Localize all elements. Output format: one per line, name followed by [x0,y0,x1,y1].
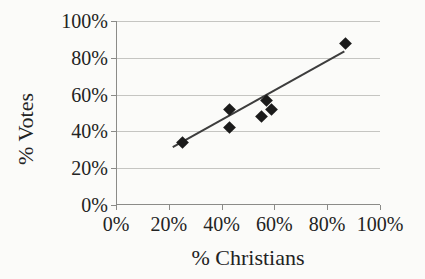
x-axis-tick [116,205,117,210]
y-axis-tick [111,131,116,132]
y-axis-tick [111,21,116,22]
y-tick-label: 0% [0,194,108,216]
y-axis-tick-labels: 0%20%40%60%80%100% [0,21,108,205]
scatter-chart: % Votes 0%20%40%60%80%100% 0%20%40%60%80… [0,0,425,279]
plot-area [116,21,380,205]
y-tick-label: 100% [0,10,108,32]
x-axis-tick [274,205,275,210]
data-point [255,110,268,123]
data-points-layer [116,21,380,205]
x-axis-tick [380,205,381,210]
x-axis-tick [169,205,170,210]
y-axis-tick [111,168,116,169]
y-axis-tick [111,58,116,59]
y-axis-tick [111,95,116,96]
x-axis-tick [222,205,223,210]
data-point [176,136,189,149]
x-tick-label: 60% [256,213,293,235]
x-tick-label: 20% [150,213,187,235]
y-tick-label: 60% [0,84,108,106]
x-axis-tick [327,205,328,210]
x-axis-title: % Christians [191,246,304,270]
data-point [223,121,236,134]
x-tick-label: 0% [103,213,130,235]
x-axis-tick-labels: 0%20%40%60%80%100% [116,213,380,237]
x-tick-label: 40% [203,213,240,235]
data-point [339,37,352,50]
x-tick-label: 80% [309,213,346,235]
data-point [223,103,236,116]
y-tick-label: 40% [0,120,108,142]
y-tick-label: 20% [0,157,108,179]
x-tick-label: 100% [357,213,404,235]
y-tick-label: 80% [0,47,108,69]
